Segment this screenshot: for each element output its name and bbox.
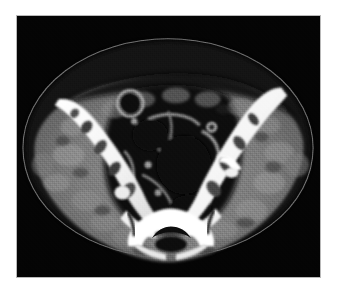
ct-scan-image [17, 16, 320, 277]
sacral-canal-lumen [155, 236, 187, 252]
right-bone-fragment [114, 186, 130, 200]
right-iliac-bone [55, 99, 162, 230]
left-iliac-bone [180, 87, 287, 228]
ct-bone-layer [17, 16, 320, 277]
left-bone-fragment [225, 168, 239, 178]
ct-image-viewer[interactable] [16, 15, 321, 278]
